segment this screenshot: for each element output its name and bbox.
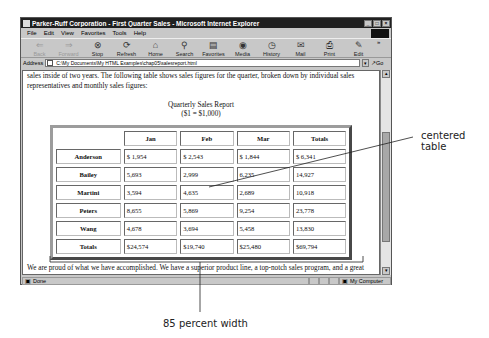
width-bracket (50, 256, 363, 262)
centered-callout-line (209, 137, 413, 187)
annotation-lines (0, 0, 489, 338)
centered-table-callout: centered table (421, 130, 489, 152)
width-callout: 85 percent width (163, 318, 248, 329)
